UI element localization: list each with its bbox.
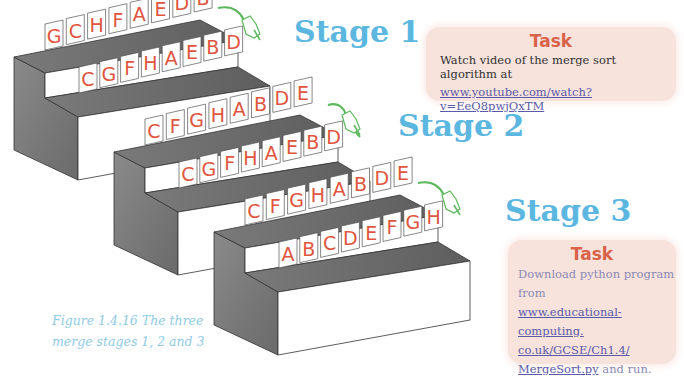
letter-card: G bbox=[200, 153, 218, 183]
caption-line: merge stages 1, 2 and 3 bbox=[52, 331, 252, 352]
letter-card: E bbox=[283, 131, 301, 161]
letter-card: H bbox=[425, 201, 443, 231]
download-link[interactable]: MergeSort.py bbox=[518, 362, 599, 376]
letter-card: D bbox=[273, 82, 291, 112]
card-letter: G bbox=[289, 189, 304, 211]
card-letter: H bbox=[243, 147, 257, 169]
card-letter: F bbox=[124, 57, 135, 79]
card-letter: D bbox=[326, 126, 341, 148]
task-text-tail: and run. bbox=[599, 362, 652, 376]
letter-card: D bbox=[173, 0, 191, 17]
letter-card: C bbox=[66, 15, 84, 45]
card-letter: H bbox=[211, 104, 225, 126]
card-letter: E bbox=[286, 136, 298, 158]
card-letter: H bbox=[311, 184, 325, 206]
letter-card: D bbox=[325, 121, 343, 151]
letter-card: B bbox=[352, 168, 370, 198]
caption-line: Figure 1.4.16 The three bbox=[52, 310, 252, 331]
figure-caption: Figure 1.4.16 The three merge stages 1, … bbox=[52, 310, 252, 352]
card-letter: A bbox=[233, 98, 246, 120]
card-letter: G bbox=[101, 63, 116, 85]
letter-card: F bbox=[266, 190, 284, 220]
letter-card: A bbox=[330, 173, 348, 203]
task-text-line: from bbox=[518, 284, 676, 303]
card-letter: D bbox=[226, 31, 241, 53]
letter-card: B bbox=[300, 233, 318, 263]
task-box-download: Task Download python program from www.ed… bbox=[508, 240, 676, 364]
letter-card: A bbox=[230, 93, 248, 123]
letter-card: E bbox=[362, 217, 380, 247]
card-letter: H bbox=[89, 14, 103, 36]
download-link[interactable]: co.uk/GCSE/Ch1.4/ bbox=[518, 343, 630, 357]
letter-card: G bbox=[288, 184, 306, 214]
letter-card: C bbox=[79, 63, 97, 93]
letter-card: E bbox=[394, 157, 412, 187]
letter-card: H bbox=[141, 47, 159, 77]
letter-card: B bbox=[304, 126, 322, 156]
task-title: Task bbox=[508, 244, 676, 264]
card-letter: G bbox=[201, 158, 216, 180]
stage-1-label: Stage 1 bbox=[294, 14, 420, 49]
letter-card: F bbox=[166, 110, 184, 140]
card-letter: F bbox=[387, 216, 398, 238]
card-letter: G bbox=[405, 211, 420, 233]
card-letter: F bbox=[170, 115, 181, 137]
card-letter: B bbox=[354, 173, 367, 195]
letter-card: F bbox=[221, 147, 239, 177]
card-letter: A bbox=[265, 142, 278, 164]
download-link[interactable]: www.educational-computing. bbox=[518, 305, 622, 338]
card-letter: E bbox=[365, 222, 377, 244]
letter-card: A bbox=[279, 238, 297, 268]
card-letter: C bbox=[81, 68, 94, 90]
card-letter: C bbox=[323, 232, 336, 254]
letter-card: G bbox=[45, 20, 63, 50]
letter-card: B bbox=[252, 88, 270, 118]
card-letter: G bbox=[189, 109, 204, 131]
letter-card: H bbox=[309, 179, 327, 209]
letter-card: E bbox=[152, 0, 170, 23]
letter-card: F bbox=[383, 211, 401, 241]
card-letter: E bbox=[397, 162, 409, 184]
stage-3-label: Stage 3 bbox=[505, 193, 631, 228]
card-letter: B bbox=[206, 36, 219, 58]
card-letter: F bbox=[270, 195, 281, 217]
letter-card: D bbox=[225, 26, 243, 56]
letter-card: C bbox=[145, 115, 163, 145]
task-description: Watch video of the merge sort algorithm … bbox=[426, 53, 676, 81]
card-letter: A bbox=[333, 178, 346, 200]
card-letter: D bbox=[274, 87, 289, 109]
card-letter: B bbox=[306, 131, 319, 153]
letter-card: G bbox=[404, 206, 422, 236]
stage-2-label: Stage 2 bbox=[398, 108, 524, 143]
card-letter: B bbox=[302, 238, 315, 260]
card-letter: G bbox=[47, 25, 62, 47]
card-letter: F bbox=[224, 152, 235, 174]
letter-card: D bbox=[341, 222, 359, 252]
card-letter: A bbox=[133, 3, 146, 25]
letter-card: E bbox=[183, 36, 201, 66]
card-letter: C bbox=[247, 200, 260, 222]
letter-card: G bbox=[100, 58, 118, 88]
letter-card: A bbox=[162, 42, 180, 72]
card-letter: H bbox=[143, 52, 157, 74]
card-letter: B bbox=[197, 0, 210, 9]
letter-card: G bbox=[188, 104, 206, 134]
letter-card: C bbox=[179, 158, 197, 188]
letter-card: H bbox=[209, 99, 227, 129]
letter-card: F bbox=[109, 4, 127, 34]
card-letter: H bbox=[426, 206, 440, 228]
card-letter: B bbox=[254, 93, 267, 115]
card-letter: E bbox=[297, 82, 309, 104]
card-letter: F bbox=[112, 9, 123, 31]
letter-card: B bbox=[204, 31, 222, 61]
letter-card: A bbox=[262, 137, 280, 167]
youtube-video-link[interactable]: www.youtube.com/watch?v=EeQ8pwjQxTM bbox=[440, 85, 592, 113]
card-letter: C bbox=[69, 20, 82, 42]
card-letter: D bbox=[343, 227, 358, 249]
card-letter: D bbox=[174, 0, 189, 14]
card-letter: A bbox=[165, 47, 178, 69]
card-letter: C bbox=[181, 163, 194, 185]
letter-card: H bbox=[241, 142, 259, 172]
letter-card: B bbox=[194, 0, 212, 12]
task-text-line: Download python program bbox=[518, 265, 676, 284]
